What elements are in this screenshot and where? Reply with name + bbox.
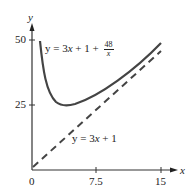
tick-label-25: 25 (15, 99, 26, 110)
fraction: 48x (104, 41, 114, 58)
tick-label-0: 0 (29, 176, 35, 187)
tick-label-15: 15 (155, 176, 166, 187)
x-axis-label: x (180, 165, 185, 176)
tick-label-7-5: 7.5 (89, 176, 103, 187)
asymptote-line (33, 51, 161, 167)
chart-plot (0, 0, 193, 196)
line-equation-label: y = 3x + 1 (72, 133, 117, 144)
tick-label-50: 50 (15, 34, 26, 45)
curve-equation-label: y = 3x + 1 + 48x (45, 41, 114, 58)
y-axis-label: y (28, 12, 33, 23)
x-axis-arrow-icon (170, 168, 178, 173)
y-axis-arrow-icon (30, 23, 35, 31)
